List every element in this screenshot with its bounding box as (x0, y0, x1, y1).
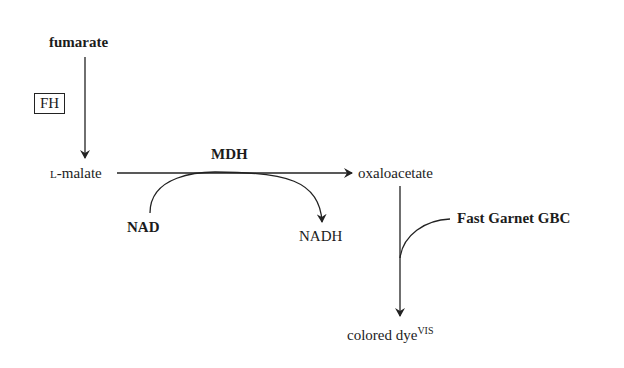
reagent-fast-garnet-gbc: Fast Garnet GBC (457, 211, 570, 226)
node-l-malate: L-malate (50, 166, 102, 181)
pathway-arrows (0, 0, 624, 368)
node-fumarate: fumarate (49, 35, 108, 50)
cofactor-nad: NAD (127, 220, 160, 235)
enzyme-fh: FH (40, 95, 59, 111)
enzyme-mdh: MDH (211, 147, 248, 162)
node-oxaloacetate: oxaloacetate (358, 166, 433, 181)
arrow-fast-garnet-join (400, 219, 450, 258)
node-colored-dye: colored dyeVIS (347, 326, 434, 343)
arrow-nad-to-nadh (150, 172, 322, 222)
cofactor-nadh: NADH (299, 229, 342, 244)
dye-superscript: VIS (417, 325, 433, 336)
enzyme-fh-box: FH (34, 93, 65, 114)
